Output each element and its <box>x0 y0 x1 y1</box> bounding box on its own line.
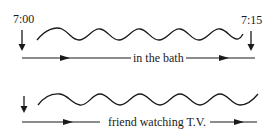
top-timeline: 7:00 7:15 in the bath <box>13 12 262 65</box>
start-time-label: 7:00 <box>13 12 34 26</box>
down-arrow-icon <box>21 96 28 113</box>
bottom-timeline: friend watching T.V. <box>21 94 259 129</box>
end-time-label: 7:15 <box>241 13 262 27</box>
activity-label: in the bath <box>133 51 184 65</box>
down-arrow-icon <box>248 31 255 51</box>
timeline-diagram: 7:00 7:15 in the bath <box>0 0 274 137</box>
activity-label: friend watching T.V. <box>108 115 206 129</box>
right-arrow-icon <box>219 55 229 61</box>
right-arrow-icon <box>63 119 73 125</box>
right-arrow-icon <box>234 119 244 125</box>
wave-line <box>37 28 243 40</box>
right-arrow-icon <box>60 55 70 61</box>
wave-line <box>38 94 258 105</box>
down-arrow-icon <box>19 30 26 51</box>
